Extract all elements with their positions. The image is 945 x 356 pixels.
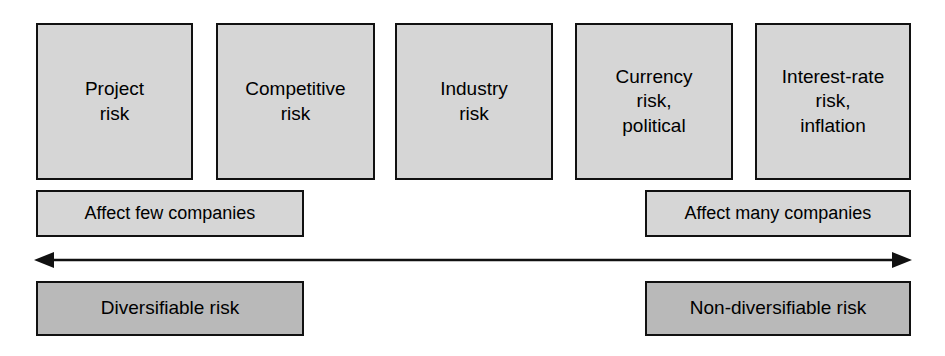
scope-label-affect-many-companies: Affect many companies [645, 190, 911, 237]
double-headed-arrow-icon [30, 248, 916, 272]
risk-spectrum-diagram: Project risk Competitive risk Industry r… [0, 0, 945, 356]
risk-box-interest-rate-risk-inflation: Interest-rate risk, inflation [755, 23, 911, 180]
risk-box-project-risk: Project risk [36, 23, 193, 180]
risk-box-industry-risk: Industry risk [395, 23, 553, 180]
summary-box-diversifiable-risk: Diversifiable risk [36, 281, 304, 336]
scope-label-affect-few-companies: Affect few companies [36, 190, 304, 237]
summary-box-non-diversifiable-risk: Non-diversifiable risk [645, 281, 911, 336]
risk-box-competitive-risk: Competitive risk [216, 23, 375, 180]
risk-box-currency-risk-political: Currency risk, political [575, 23, 733, 180]
spectrum-arrow [30, 248, 916, 272]
